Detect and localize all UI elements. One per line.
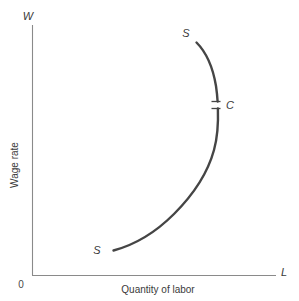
y-axis-title: Wage rate <box>9 142 20 188</box>
x-axis-title: Quantity of labor <box>121 284 195 295</box>
supply-curve-lower-segment <box>114 109 219 251</box>
curve-label-bottom: S <box>93 244 101 256</box>
supply-curve-chart: W L 0 S S C Wage rate Quantity of labor <box>0 0 299 301</box>
y-axis-symbol: W <box>23 10 35 22</box>
chart-figure: W L 0 S S C Wage rate Quantity of labor <box>0 0 299 301</box>
bend-point-label: C <box>226 99 234 111</box>
curve-label-top: S <box>182 27 190 39</box>
supply-curve-upper-segment <box>197 43 218 102</box>
origin-label: 0 <box>18 279 24 290</box>
x-axis-symbol: L <box>281 266 287 278</box>
